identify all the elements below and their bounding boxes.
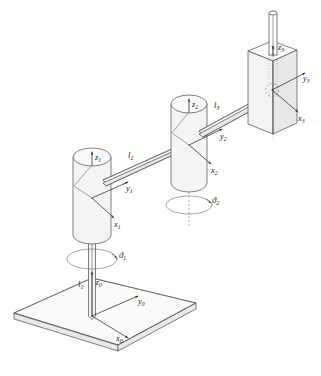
joint-theta2-rotation	[166, 188, 212, 228]
base-plate	[14, 278, 196, 351]
label-x1: x1	[113, 219, 121, 230]
label-theta1: ϑ1	[119, 250, 126, 261]
robot-diagram-canvas: z0 y0 x0 l1 ϑ1 z1	[0, 0, 321, 376]
label-l2: l2	[128, 150, 133, 161]
label-l3: l3	[214, 100, 219, 111]
label-x3: x3	[297, 113, 305, 124]
label-x2: x2	[210, 165, 218, 176]
label-y1: y1	[125, 183, 133, 194]
label-theta2: ϑ2	[212, 195, 219, 206]
label-z3: z3	[277, 42, 284, 53]
label-y3: y3	[302, 73, 310, 84]
label-z0: z0	[95, 277, 102, 288]
robot-kinematics-diagram: z0 y0 x0 l1 ϑ1 z1	[0, 0, 321, 376]
label-l1: l1	[78, 279, 83, 290]
label-y2: y2	[219, 131, 227, 142]
